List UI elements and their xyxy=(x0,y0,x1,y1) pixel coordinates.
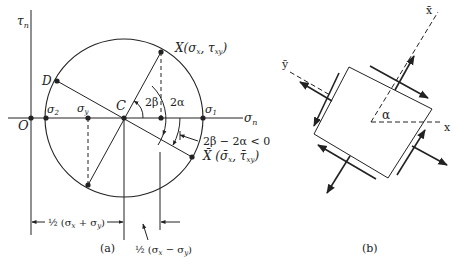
caption-b: (b) xyxy=(362,242,378,255)
label-xbar-axis: x̄ xyxy=(426,4,433,17)
label-half-diff: ½ (σx − σy) xyxy=(135,244,192,257)
point-y xyxy=(85,182,90,187)
panel-a-points xyxy=(28,49,205,187)
dim-half-diff-leader xyxy=(143,224,148,240)
caption-a: (a) xyxy=(100,242,115,255)
panel-a-labels: τn σn O σ2 σy C σ1 D X(σx, τxy) X̄ (σ̄x,… xyxy=(17,14,270,257)
sigma-axis-label: σn xyxy=(244,111,257,127)
label-2beta: 2β xyxy=(145,96,158,109)
point-xbar xyxy=(189,154,194,159)
arc-2alpha xyxy=(152,86,166,135)
tau-axis-label: τn xyxy=(17,14,29,30)
arc-2beta xyxy=(134,101,143,118)
shear-arrow-right xyxy=(397,130,425,175)
point-sigma2 xyxy=(43,115,48,120)
difference-leader xyxy=(180,135,198,141)
label-origin: O xyxy=(18,118,29,133)
arc-difference xyxy=(173,118,180,145)
label-difference: 2β − 2α < 0 xyxy=(203,135,270,148)
label-sigma2: σ2 xyxy=(47,103,60,117)
xbar-axis-dashed xyxy=(371,12,438,122)
point-sigma1 xyxy=(200,115,205,120)
label-sigma1: σ1 xyxy=(205,103,217,117)
point-origin xyxy=(28,115,33,120)
mohr-circle-figure: τn σn O σ2 σy C σ1 D X(σx, τxy) X̄ (σ̄x,… xyxy=(0,0,453,263)
label-half-sum: ½ (σx + σy) xyxy=(48,217,105,230)
label-sigma-y: σy xyxy=(77,102,90,116)
point-sigma-x xyxy=(158,115,163,120)
panel-b-labels: x̄ x ȳ α (b) xyxy=(281,4,451,255)
panel-b-stress-element xyxy=(290,12,447,193)
label-2alpha: 2α xyxy=(170,96,185,109)
point-center xyxy=(121,115,126,120)
label-x-axis: x xyxy=(444,121,451,134)
label-xbar-point: X̄ (σ̄x, τ̄xy) xyxy=(202,148,259,164)
shear-arrow-left xyxy=(314,73,339,126)
label-alpha: α xyxy=(382,108,390,122)
point-sigma-y xyxy=(85,115,90,120)
label-ybar-axis: ȳ xyxy=(281,58,289,71)
shear-arrow-bottom xyxy=(318,145,376,179)
normal-arrow-lower-right xyxy=(412,146,447,165)
label-center: C xyxy=(116,98,126,113)
point-d xyxy=(54,78,59,83)
ybar-axis-dashed xyxy=(290,72,330,95)
label-x-point: X(σx, τxy) xyxy=(174,41,228,56)
label-d: D xyxy=(41,74,52,88)
point-x xyxy=(158,49,163,54)
